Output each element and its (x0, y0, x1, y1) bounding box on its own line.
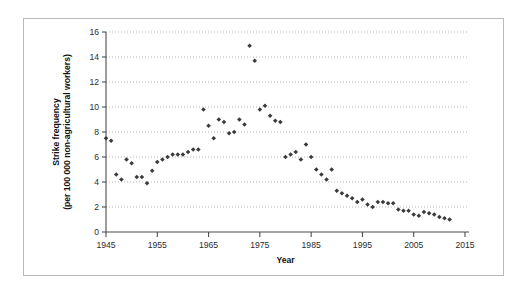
y-tick-label: 12 (89, 77, 99, 87)
data-point (191, 147, 196, 152)
x-tick-label: 1975 (250, 240, 269, 250)
data-point (227, 131, 232, 136)
data-point (145, 181, 150, 186)
x-tick-label: 1995 (353, 240, 372, 250)
data-point (176, 152, 181, 157)
data-point (355, 200, 360, 205)
data-point (114, 172, 119, 177)
data-point (124, 157, 129, 162)
data-point (345, 193, 350, 198)
data-point (160, 157, 165, 162)
data-point (268, 113, 273, 118)
data-point (258, 107, 263, 112)
data-point (181, 152, 186, 157)
data-point (288, 152, 293, 157)
data-point (304, 142, 309, 147)
data-point (329, 167, 334, 172)
data-point (150, 168, 155, 173)
data-point (140, 175, 145, 180)
data-point (170, 152, 175, 157)
x-tick-label: 1985 (302, 240, 321, 250)
data-point (422, 210, 427, 215)
data-point (283, 155, 288, 160)
data-point (391, 201, 396, 206)
y-tick-label: 2 (94, 202, 99, 212)
x-tick-label: 1945 (96, 240, 115, 250)
x-tick-label: 1955 (148, 240, 167, 250)
y-tick-label: 0 (94, 227, 99, 237)
data-point (119, 177, 124, 182)
data-point (386, 201, 391, 206)
data-point (309, 155, 314, 160)
data-point (201, 107, 206, 112)
data-point (232, 130, 237, 135)
y-tick-group: 0246810121416 (89, 27, 106, 237)
data-point (396, 207, 401, 212)
y-tick-label: 6 (94, 152, 99, 162)
data-point (432, 212, 437, 217)
y-axis-title-line1: Strike frequency (51, 98, 61, 166)
data-point (299, 157, 304, 162)
data-point (324, 177, 329, 182)
data-point (406, 208, 411, 213)
data-point (447, 217, 452, 222)
scatter-chart: 0246810121416 19451955196519751985199520… (0, 0, 528, 300)
data-point (293, 150, 298, 155)
x-tick-group: 19451955196519751985199520052015 (96, 232, 474, 250)
data-point (340, 191, 345, 196)
data-point (334, 188, 339, 193)
data-point (211, 136, 216, 141)
data-point (217, 117, 222, 122)
data-point (376, 200, 381, 205)
x-tick-label: 1965 (199, 240, 218, 250)
data-point (365, 202, 370, 207)
gridlines-group (106, 32, 469, 207)
data-point (401, 208, 406, 213)
data-point (206, 123, 211, 128)
data-point (242, 122, 247, 127)
data-point (273, 118, 278, 123)
data-point (427, 211, 432, 216)
y-axis-title-line2: (per 100 000 non-agricultural workers) (62, 54, 72, 210)
data-point (109, 138, 114, 143)
y-tick-label: 4 (94, 177, 99, 187)
data-point (155, 160, 160, 165)
data-point (104, 136, 109, 141)
data-point (134, 175, 139, 180)
data-point-group (104, 43, 452, 221)
data-point (442, 216, 447, 221)
x-axis-title: Year (276, 255, 295, 265)
data-point (381, 200, 386, 205)
data-point (263, 103, 268, 108)
data-point (186, 150, 191, 155)
data-point (319, 172, 324, 177)
data-point (350, 196, 355, 201)
data-point (196, 147, 201, 152)
y-tick-label: 8 (94, 127, 99, 137)
data-point (360, 197, 365, 202)
data-point (417, 213, 422, 218)
data-point (411, 212, 416, 217)
y-tick-label: 16 (89, 27, 99, 37)
data-point (222, 120, 227, 125)
data-point (278, 120, 283, 125)
data-point (252, 58, 257, 63)
x-tick-label: 2015 (455, 240, 474, 250)
data-point (437, 215, 442, 220)
x-tick-label: 2005 (404, 240, 423, 250)
data-point (247, 43, 252, 48)
data-point (129, 161, 134, 166)
y-tick-label: 14 (89, 52, 99, 62)
y-tick-label: 10 (89, 102, 99, 112)
data-point (165, 155, 170, 160)
data-point (237, 117, 242, 122)
chart-svg: 0246810121416 19451955196519751985199520… (0, 0, 528, 300)
data-point (370, 205, 375, 210)
data-point (314, 167, 319, 172)
